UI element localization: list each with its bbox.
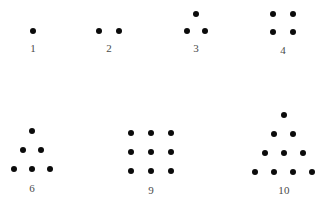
dot [96,28,102,34]
dot [281,112,287,118]
dot [262,150,268,156]
group-label-1: 1 [30,43,36,54]
dot-group-6 [0,0,327,210]
dot [271,131,277,137]
dot [290,169,296,175]
dot [271,169,277,175]
dot-group-2 [0,0,327,210]
dot [281,150,287,156]
dot [202,28,208,34]
group-label-9: 9 [148,185,154,196]
dot [29,166,35,172]
dot [47,166,53,172]
dot [168,168,174,174]
dot [20,147,26,153]
dot-group-4 [0,0,327,210]
dot [290,11,296,17]
dot-group-1 [0,0,327,210]
group-label-10: 10 [278,185,289,196]
dot [252,169,258,175]
dot [148,168,154,174]
group-label-6: 6 [29,183,35,194]
dot-group-9 [0,0,327,210]
dot [29,128,35,134]
group-label-4: 4 [280,45,286,56]
dot [300,150,306,156]
dot-group-10 [0,0,327,210]
dot [290,131,296,137]
dot [128,149,134,155]
dot [290,29,296,35]
dot [30,28,36,34]
dot [168,149,174,155]
dot [309,169,315,175]
group-label-3: 3 [193,43,199,54]
dot [148,130,154,136]
dot [184,28,190,34]
dot [128,130,134,136]
dot [128,168,134,174]
dot-group-3 [0,0,327,210]
dot [193,11,199,17]
dot [270,11,276,17]
figurate-number-diagram: 12346910 [0,0,327,210]
group-label-2: 2 [106,43,112,54]
dot [11,166,17,172]
dot [270,29,276,35]
dot [116,28,122,34]
dot [168,130,174,136]
dot [148,149,154,155]
dot [38,147,44,153]
